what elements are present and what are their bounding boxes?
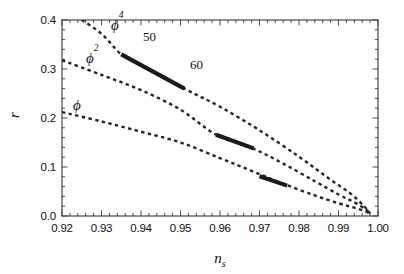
x-tick-label: 0.93 [91, 222, 113, 234]
x-tick-label: 0.99 [328, 222, 350, 234]
x-axis-title: ns [214, 250, 225, 269]
curve-label-phi-text: ϕ [73, 97, 81, 113]
plot-background [62, 20, 378, 216]
x-tick-label: 1.00 [367, 222, 389, 234]
y-tick-label: 0.3 [20, 63, 56, 75]
y-axis-title: r [6, 112, 23, 118]
x-axis-title-sub: s [222, 258, 226, 269]
curve-label-phi2-base: ϕ [86, 50, 94, 66]
y-tick-label: 0.4 [20, 14, 56, 26]
curve-label-phi4-base: ϕ [111, 17, 119, 33]
curve-label-phi4: ϕ4 [111, 16, 124, 34]
x-axis-title-base: n [214, 250, 222, 266]
x-tick-label: 0.97 [249, 222, 271, 234]
x-tick-label: 0.92 [51, 222, 73, 234]
annotation-efold-60: 60 [190, 57, 203, 73]
y-tick-label: 0.1 [20, 161, 56, 173]
x-tick-label: 0.98 [288, 222, 310, 234]
y-tick-label: 0.2 [20, 112, 56, 124]
x-tick-label: 0.95 [170, 222, 192, 234]
x-tick-label: 0.96 [209, 222, 231, 234]
inflation-ns-r-plot: 0.920.930.940.950.960.970.980.991.000.00… [0, 0, 404, 274]
curve-label-phi2-exponent: 2 [94, 43, 99, 53]
annotation-efold-50: 50 [143, 29, 156, 45]
y-tick-label: 0.0 [20, 210, 56, 222]
curve-label-phi4-exponent: 4 [119, 10, 124, 20]
x-tick-label: 0.94 [130, 222, 152, 234]
curve-label-phi2: ϕ2 [86, 49, 99, 67]
curve-label-phi: ϕ [73, 97, 81, 114]
